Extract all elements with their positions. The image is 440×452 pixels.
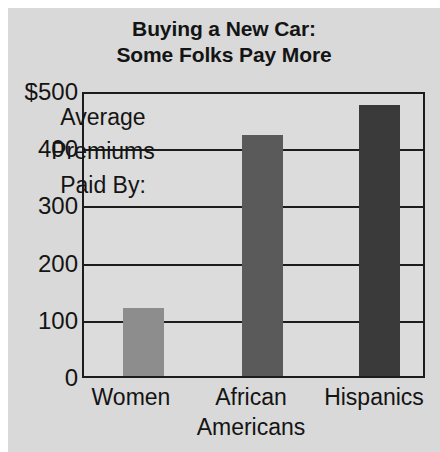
- x-tick-african-line-1: African: [186, 382, 316, 412]
- chart-paper-background: Buying a New Car: Some Folks Pay More $5…: [8, 8, 440, 452]
- x-tick-hispanics-line-1: Hispanics: [306, 382, 440, 412]
- chart-figure: Buying a New Car: Some Folks Pay More $5…: [0, 0, 440, 452]
- x-axis-tick-labels: Women African Americans Hispanics: [82, 382, 425, 452]
- bar-hispanics: [359, 105, 400, 376]
- x-tick-label-african-americans: African Americans: [186, 382, 316, 442]
- x-tick-label-women: Women: [66, 382, 196, 412]
- annotation-line-1: Average: [28, 100, 178, 134]
- bar-african-americans: [242, 135, 283, 376]
- chart-title: Buying a New Car: Some Folks Pay More: [8, 16, 440, 68]
- bar-women: [123, 308, 164, 376]
- x-tick-label-hispanics: Hispanics: [306, 382, 440, 412]
- chart-title-line-1: Buying a New Car:: [132, 17, 316, 40]
- annotation-line-2: Premiums: [28, 134, 178, 168]
- y-tick-label-200: 200: [6, 252, 78, 276]
- x-tick-women-line-1: Women: [66, 382, 196, 412]
- y-tick-label-100: 100: [6, 309, 78, 333]
- chart-annotation: Average Premiums Paid By:: [28, 100, 178, 202]
- chart-title-line-2: Some Folks Pay More: [8, 42, 440, 68]
- annotation-line-3: Paid By:: [28, 168, 178, 202]
- x-tick-african-line-2: Americans: [186, 412, 316, 442]
